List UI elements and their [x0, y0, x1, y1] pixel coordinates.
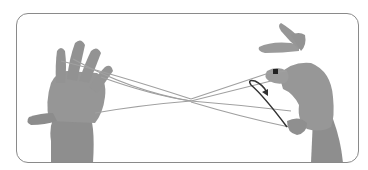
left-hand — [27, 40, 113, 162]
figure-frame — [16, 13, 359, 163]
right-hand — [259, 23, 343, 162]
string-figure-illustration — [17, 14, 358, 162]
marker-dot — [273, 69, 278, 74]
